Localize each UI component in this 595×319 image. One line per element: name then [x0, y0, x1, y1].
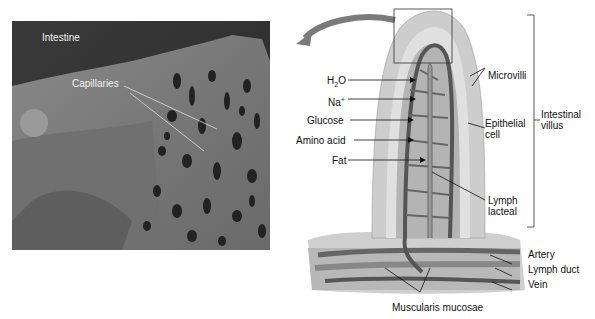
- glucose-label: Glucose: [307, 115, 344, 126]
- curved-arrow-icon: [305, 17, 395, 38]
- vein-label: Vein: [528, 279, 547, 290]
- fat-label: Fat: [332, 155, 346, 166]
- lymph-lacteal-label: Lymphlacteal: [488, 195, 518, 217]
- lymph-duct-label: Lymph duct: [528, 264, 579, 275]
- amino-acid-label: Amino acid: [296, 135, 345, 146]
- microvilli-label: Microvilli: [488, 70, 526, 81]
- epithelial-cell-label: Epithelialcell: [485, 118, 526, 140]
- intestinal-villus-label: Intestinalvillus: [541, 109, 581, 131]
- artery-label: Artery: [528, 249, 555, 260]
- sodium-label: Na+: [328, 94, 345, 108]
- h2o-label: H2O: [327, 75, 346, 90]
- villus-diagram: [0, 0, 595, 319]
- muscularis-mucosae-label: Muscularis mucosae: [392, 302, 483, 313]
